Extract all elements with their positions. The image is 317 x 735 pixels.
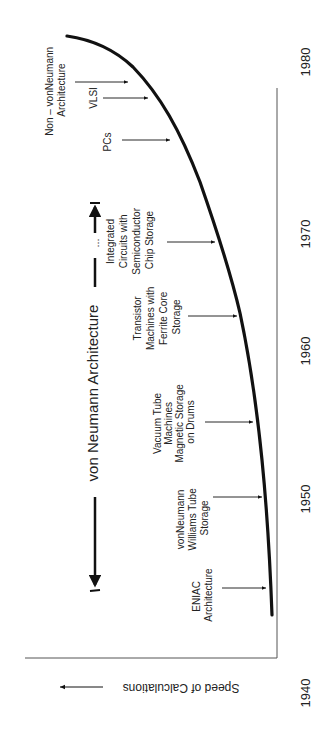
- annotation-vlsi: VLSI: [88, 87, 148, 109]
- tick-1960: 1960: [298, 337, 313, 366]
- annotation-non-von-neumann: Non – vonNeumann Architecture: [44, 44, 128, 136]
- annotation-pcs: PCs: [102, 133, 170, 152]
- tick-1980: 1980: [298, 48, 313, 77]
- svg-text:vonNeumann Williams Tube: vonNeumann Williams Tube Storage: [175, 485, 210, 550]
- tick-1970: 1970: [298, 220, 313, 249]
- annotation-eniac: ENIAC Architecture: [191, 568, 266, 622]
- svg-text:Vacuum Tube Machines: Vacuum Tube Machines Magnetic Storage on…: [152, 381, 196, 462]
- annotation-transistor: Transistor Machines with Ferrite Core St…: [132, 284, 237, 350]
- annotation-vacuum-tube: Vacuum Tube Machines Magnetic Storage on…: [152, 381, 253, 462]
- speed-chart: 1940 1950 1960 1970 1980 Speed of Calcul…: [0, 0, 317, 735]
- svg-text:VLSI: VLSI: [88, 87, 99, 109]
- annotation-williams: vonNeumann Williams Tube Storage: [175, 485, 262, 550]
- x-tick-labels: 1940 1950 1960 1970 1980: [298, 48, 313, 708]
- svg-text:Transistor Machines with: Transistor Machines with Ferrite Core St…: [132, 284, 182, 350]
- svg-text:Integrated Circuits with: Integrated Circuits with Semiconductor C…: [105, 205, 155, 274]
- svg-text:ENIAC Architecture: ENIAC Architecture: [191, 568, 214, 622]
- era-dots: ...: [89, 238, 101, 247]
- y-axis-label-group: Speed of Calculations: [60, 681, 239, 695]
- era-label: von Neumann Architecture: [84, 305, 101, 482]
- svg-text:PCs: PCs: [102, 133, 113, 152]
- tick-1950: 1950: [298, 485, 313, 514]
- era-bracket: ... von Neumann Architecture: [84, 203, 101, 591]
- y-axis-label: Speed of Calculations: [123, 681, 240, 695]
- tick-1940: 1940: [298, 679, 313, 708]
- annotation-integrated-circuits: Integrated Circuits with Semiconductor C…: [105, 205, 215, 274]
- svg-text:Non – vonNeumann Archite: Non – vonNeumann Architecture: [44, 44, 67, 136]
